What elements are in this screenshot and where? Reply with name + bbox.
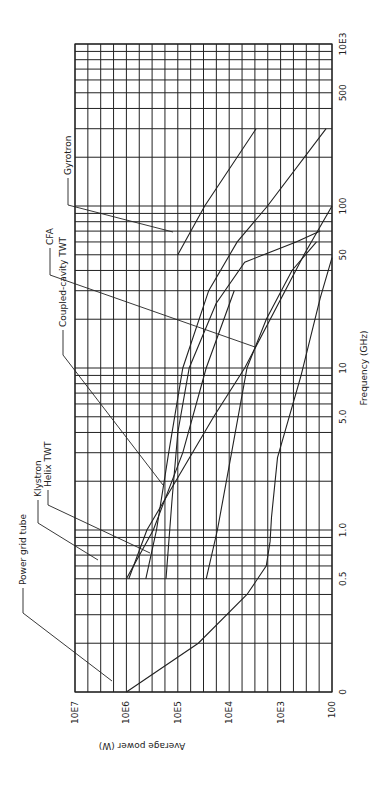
curve-coupled-cavity-twt xyxy=(166,231,320,579)
label-coupled-cavity-twt: Coupled-cavity TWT xyxy=(58,236,68,327)
x-axis-label: Frequency (GHz) xyxy=(359,331,369,406)
grid xyxy=(75,44,332,692)
power-tick-label: 10E6 xyxy=(121,701,131,724)
helix-twt-leader xyxy=(48,490,150,553)
label-cfa: CFA xyxy=(45,227,55,245)
frequency-tick-label: 10 xyxy=(338,362,348,374)
power-grid-leader xyxy=(23,588,112,681)
frequency-tick-label: 0.5 xyxy=(338,572,348,586)
label-helix-twt: Helix TWT xyxy=(43,441,53,487)
label-power-grid-tube: Power grid tube xyxy=(18,513,28,585)
chart-svg: Gyrotron CFA Coupled-cavity TWT Helix TW… xyxy=(0,0,385,787)
frequency-tick-label: 10E3 xyxy=(338,33,348,56)
gyrotron-leader xyxy=(68,178,173,232)
y-axis-label: Average power (W) xyxy=(99,741,185,751)
power-tick-label: 10E4 xyxy=(224,701,234,724)
curve-helix-twt xyxy=(206,242,316,579)
frequency-tick-label: 5.0 xyxy=(338,409,348,424)
frequency-tick-label: 0 xyxy=(338,689,348,695)
power-tick-label: 10E3 xyxy=(276,701,286,724)
frequency-tick-label: 1.0 xyxy=(338,523,348,538)
label-gyrotron: Gyrotron xyxy=(63,135,73,175)
curve-gyrotron xyxy=(178,129,256,255)
frequency-tick-label: 50 xyxy=(338,249,348,261)
label-klystron: Klystron xyxy=(33,460,43,497)
curve-klystron xyxy=(146,129,326,579)
frequency-axis-ticks: 00.51.05.0105010050010E3 xyxy=(338,33,348,695)
power-axis-ticks: 10E710E610E510E410E3100 xyxy=(70,701,337,724)
power-tick-label: 10E7 xyxy=(70,701,80,724)
power-tick-label: 10E5 xyxy=(173,701,183,724)
frequency-tick-label: 100 xyxy=(338,197,348,214)
annotation-labels: Gyrotron CFA Coupled-cavity TWT Helix TW… xyxy=(18,135,73,585)
curve-linear-low-power-envelope- xyxy=(129,206,332,579)
coupled-cavity-leader xyxy=(63,330,163,485)
frequency-tick-label: 500 xyxy=(338,84,348,101)
power-tick-label: 100 xyxy=(327,701,337,718)
